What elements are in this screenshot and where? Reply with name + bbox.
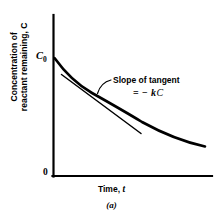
y-axis-title: Concentration of reactant remaining, C (10, 7, 30, 127)
x-axis-title-variable: t (122, 184, 125, 194)
x-axis-title-text: Time, (98, 184, 120, 194)
origin-tick-label: 0 (43, 167, 48, 178)
figure-container: Concentration of reactant remaining, C C… (0, 0, 223, 216)
c0-tick-label: C0 (36, 50, 47, 62)
decay-curve (55, 58, 206, 147)
concentration-symbol: C (156, 87, 163, 98)
figure-caption: (a) (0, 200, 223, 210)
tangent-annotation-line2: = − kC (113, 87, 180, 99)
tangent-annotation: Slope of tangent = − kC (113, 76, 180, 98)
tangent-annotation-equals: = − (133, 87, 148, 98)
tangent-annotation-line1: Slope of tangent (113, 76, 180, 86)
annotation-leader-line (98, 80, 112, 94)
figure-caption-text: (a) (106, 200, 117, 210)
c0-subscript: 0 (43, 55, 47, 64)
c0-base: C (36, 50, 43, 61)
y-axis-title-line2: reactant remaining, C (20, 7, 30, 127)
x-axis-title: Time, t (0, 184, 223, 195)
